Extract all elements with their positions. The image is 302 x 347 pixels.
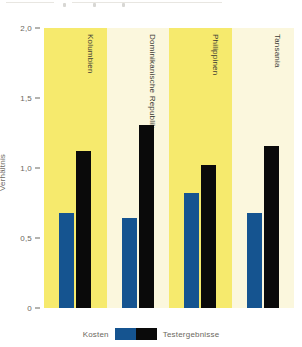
- bar-kosten: [184, 193, 199, 308]
- y-tick-mark: [35, 28, 40, 29]
- y-tick-mark: [35, 168, 40, 169]
- y-tick-label: 0,5: [20, 234, 32, 243]
- category-band: [169, 28, 232, 308]
- chart-legend: Kosten Testergebnisse: [0, 326, 302, 342]
- plot-area: KolumbienDominikanische RepublikPhilippi…: [44, 28, 294, 308]
- y-axis-title: Verhältnis: [0, 154, 7, 191]
- bar-chart: Verhältnis 00,51,01,52,0 KolumbienDomini…: [0, 0, 302, 347]
- bar-kosten: [247, 213, 262, 308]
- bar-kosten: [122, 218, 137, 308]
- bar-kosten: [59, 213, 74, 308]
- legend-label-testergebnisse: Testergebnisse: [163, 330, 220, 339]
- category-label: Dominikanische Republik: [148, 34, 157, 128]
- category-label: Tansania: [273, 34, 282, 68]
- legend-label-kosten: Kosten: [83, 330, 109, 339]
- scan-artifacts: [0, 0, 302, 16]
- bar-testergebnisse: [139, 125, 154, 308]
- category-band: [107, 28, 170, 308]
- y-axis: Verhältnis 00,51,01,52,0: [0, 0, 44, 347]
- y-tick-label: 2,0: [20, 24, 32, 33]
- y-tick-label: 0: [27, 304, 32, 313]
- y-tick-label: 1,5: [20, 94, 32, 103]
- y-tick-mark: [35, 308, 40, 309]
- legend-swatch-testergebnisse: [136, 328, 157, 340]
- bar-testergebnisse: [76, 151, 91, 308]
- y-tick-mark: [35, 238, 40, 239]
- category-label: Philippinen: [211, 34, 220, 75]
- bar-testergebnisse: [201, 165, 216, 308]
- category-band: [232, 28, 295, 308]
- y-tick-label: 1,0: [20, 164, 32, 173]
- category-band: [44, 28, 107, 308]
- y-tick-mark: [35, 98, 40, 99]
- category-label: Kolumbien: [86, 34, 95, 74]
- legend-swatch-kosten: [115, 328, 136, 340]
- bar-testergebnisse: [264, 146, 279, 308]
